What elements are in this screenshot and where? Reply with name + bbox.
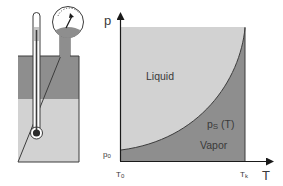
thermometer-bulb <box>33 129 40 136</box>
liquid-label: Liquid <box>146 70 174 82</box>
figure: p T Liquid Vapor pS (T) p0 T0 Tk <box>0 0 283 186</box>
y-tick-p0: p0 <box>103 150 111 159</box>
pressure-gauge-icon <box>53 7 84 58</box>
x-tick-tk: Tk <box>240 170 249 179</box>
vapor-label: Vapor <box>200 139 228 151</box>
curve-label: pS (T) <box>207 118 235 131</box>
x-tick-t0: T0 <box>116 170 125 179</box>
apparatus <box>18 7 84 163</box>
curve-label-arg: (T) <box>218 118 234 130</box>
vapor-phase <box>18 56 79 99</box>
liquid-phase <box>18 99 79 162</box>
thermometer-scale <box>34 28 39 40</box>
x-axis-label: T <box>262 168 270 183</box>
phase-diagram: p T Liquid Vapor pS (T) p0 T0 Tk <box>103 13 272 183</box>
y-axis-label: p <box>104 13 111 28</box>
